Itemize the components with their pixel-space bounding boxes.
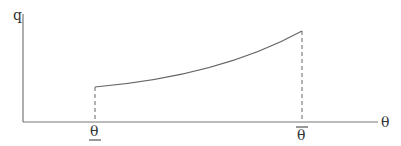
- y-axis-label: q: [13, 7, 22, 23]
- tick-upper-theta: θ: [297, 127, 305, 143]
- x-axis-label: θ: [381, 114, 389, 130]
- tick-lower-theta: θ: [90, 123, 98, 139]
- diagram: q θ θ θ: [0, 0, 401, 146]
- q-curve: [95, 31, 302, 87]
